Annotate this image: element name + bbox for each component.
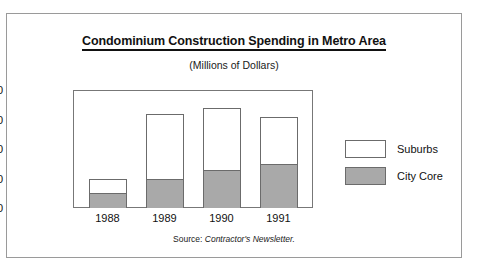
bar-column-1989[interactable] [146,90,184,208]
bar-segment-city-core[interactable] [204,170,240,208]
y-axis-tick-label: 6.0 [0,143,3,155]
bar-column-1990[interactable] [203,90,241,208]
legend-swatch-icon [345,140,386,158]
source-label: Source: [173,234,202,244]
legend-swatch-icon [345,167,386,185]
bar-stack-suburbs[interactable] [203,108,241,208]
cut-off-top-caption [4,0,264,5]
source-value: Contractor's Newsletter. [205,234,295,244]
legend-item[interactable]: City Core [345,167,443,185]
y-axis-tick-label: 4.0 [0,202,3,214]
source-note: Source: Contractor's Newsletter. [7,234,461,244]
x-axis-tick-label: 1988 [89,212,127,228]
legend-item[interactable]: Suburbs [345,140,443,158]
bar-column-1988[interactable] [89,90,127,208]
bar-stack-suburbs[interactable] [146,114,184,208]
x-axis-tick-label: 1990 [203,212,241,228]
bar-segment-city-core[interactable] [90,193,126,208]
y-axis-tick-label: 5.0 [0,173,3,185]
bar-group [73,90,313,208]
x-axis: 1988198919901991 [73,212,313,228]
chart-title: Condominium Construction Spending in Met… [7,31,461,49]
legend-label: City Core [397,170,443,182]
bar-stack-suburbs[interactable] [260,117,298,208]
chart-legend: SuburbsCity Core [345,140,443,194]
legend-label: Suburbs [397,143,438,155]
plot-area [73,90,313,208]
bar-stack-suburbs[interactable] [89,179,127,209]
chart-title-text: Condominium Construction Spending in Met… [82,34,386,51]
figure-frame: Condominium Construction Spending in Met… [6,13,462,258]
y-axis: 8.07.06.05.04.0 [0,90,3,208]
x-axis-tick-label: 1991 [260,212,298,228]
bar-segment-city-core[interactable] [261,164,297,208]
x-axis-tick-label: 1989 [146,212,184,228]
chart-subtitle: (Millions of Dollars) [7,59,461,71]
y-axis-tick-label: 7.0 [0,114,3,126]
bar-segment-city-core[interactable] [147,179,183,209]
y-axis-tick-label: 8.0 [0,84,3,96]
bar-column-1991[interactable] [260,90,298,208]
